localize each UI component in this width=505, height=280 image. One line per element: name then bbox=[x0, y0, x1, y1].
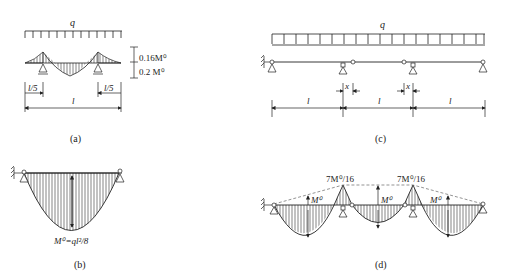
value-0-16M0: 0.16M⁰ bbox=[139, 53, 167, 63]
diagram-canvas: q 0.16M⁰ 0.2 M⁰ l/5 bbox=[0, 0, 505, 280]
dim-l5-right: l/5 bbox=[104, 83, 114, 93]
value-0-2M0: 0.2 M⁰ bbox=[139, 67, 165, 77]
support-right-a bbox=[93, 64, 103, 74]
span-1-c: l bbox=[307, 96, 310, 106]
load-label-c: q bbox=[380, 19, 385, 30]
span-2-c: l bbox=[378, 96, 381, 106]
peak-label-right: 7M⁰/16 bbox=[397, 174, 426, 184]
caption-b: (b) bbox=[74, 259, 86, 271]
moment-label-span-1: M⁰ bbox=[310, 195, 323, 205]
span-3-c: l bbox=[449, 96, 452, 106]
panel-b: M⁰=ql²/8 (b) bbox=[11, 166, 124, 271]
panel-a: q 0.16M⁰ 0.2 M⁰ l/5 bbox=[25, 17, 167, 145]
panel-c: q x x l l l (c) bbox=[261, 19, 487, 145]
moment-label-span-2: M⁰ bbox=[380, 195, 393, 205]
caption-d: (d) bbox=[375, 259, 387, 271]
caption-c: (c) bbox=[375, 133, 386, 145]
peak-label-left: 7M⁰/16 bbox=[326, 174, 355, 184]
offset-x-right: x bbox=[405, 81, 410, 91]
moment-label-b: M⁰=ql²/8 bbox=[53, 236, 89, 246]
support-left-a bbox=[38, 64, 48, 74]
moment-label-span-3: M⁰ bbox=[429, 195, 442, 205]
offset-x-left: x bbox=[344, 81, 349, 91]
fixed-wall-b bbox=[11, 166, 22, 179]
dim-span-a: l bbox=[72, 96, 75, 106]
dim-l5-left: l/5 bbox=[28, 83, 38, 93]
caption-a: (a) bbox=[70, 133, 81, 145]
panel-d: 7M⁰/16 7M⁰/16 M⁰ M⁰ M⁰ (d) bbox=[261, 174, 487, 271]
distributed-load-a bbox=[25, 31, 122, 38]
distributed-load-c bbox=[272, 34, 485, 45]
load-label-a: q bbox=[70, 17, 75, 28]
